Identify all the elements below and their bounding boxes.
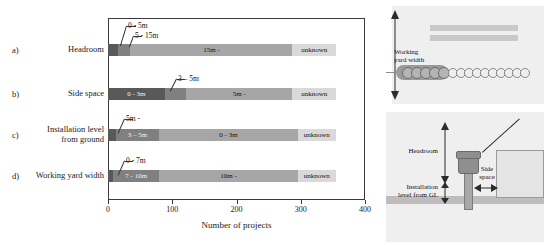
- x-axis-tick-label: 100: [157, 205, 187, 214]
- bar-segment: 0 - 3m: [159, 129, 297, 141]
- x-axis-tick-label: 400: [350, 205, 380, 214]
- reference-diagrams: Working yard width Headroom: [386, 0, 548, 245]
- x-axis-tick-label: 0: [93, 205, 123, 214]
- category-letter-d: d): [12, 171, 19, 181]
- side-space-label: Side space: [472, 165, 502, 181]
- x-axis-tick: [301, 200, 302, 204]
- x-axis-tick: [172, 200, 173, 204]
- bar-segment: 5m -: [186, 88, 292, 100]
- bar-segment: unknown: [298, 129, 337, 141]
- headroom-label: Headroom: [394, 147, 438, 155]
- bar-segment: unknown: [298, 170, 337, 182]
- installation-level-label: Installation level from GL: [380, 183, 438, 199]
- bar-segment: 0 - 3m: [108, 88, 165, 100]
- plan-conduit-circle: [520, 68, 530, 78]
- bar-segment: [108, 44, 118, 56]
- category-name-installation-level: Installation level from ground: [22, 125, 104, 144]
- building-wall: [496, 150, 544, 198]
- bar-segment: [108, 129, 116, 141]
- stacked-bar-chart: a) Headroom b) Side space c) Installatio…: [0, 0, 382, 245]
- category-name-working-yard-width: Working yard width: [22, 171, 104, 181]
- category-letter-a: a): [12, 45, 19, 55]
- x-axis-tick: [365, 200, 366, 204]
- x-axis-tick: [108, 200, 109, 204]
- leader-a-5-15m: [134, 36, 142, 37]
- bar-segment: unknown: [292, 88, 336, 100]
- bar-segment: 3 – 5m: [116, 129, 160, 141]
- plan-band-lower: [430, 35, 518, 41]
- x-axis-tick-label: 200: [222, 205, 252, 214]
- headroom-arrow: [439, 122, 451, 184]
- x-axis-title: Number of projects: [108, 220, 365, 230]
- installation-level-arrow: [439, 182, 451, 204]
- leader-c-5m: [125, 119, 133, 120]
- bar-segment: 15m -: [130, 44, 292, 56]
- transformer-cap: [456, 151, 481, 159]
- figure-root: a) Headroom b) Side space c) Installatio…: [0, 0, 548, 245]
- bar-segment: 10m -: [159, 170, 297, 182]
- category-name-side-space: Side space: [22, 89, 104, 99]
- x-axis-tick: [237, 200, 238, 204]
- bar-segment: [165, 88, 187, 100]
- x-axis-tick-label: 300: [286, 205, 316, 214]
- leader-b-3-5m: [177, 79, 185, 80]
- category-letter-c: c): [12, 130, 19, 140]
- category-letter-b: b): [12, 89, 19, 99]
- bar-segment: unknown: [292, 44, 336, 56]
- leader-a-0-5m: [127, 26, 136, 27]
- side-space-arrow: [474, 183, 498, 193]
- leader-d-0-7m: [125, 161, 133, 162]
- category-name-headroom: Headroom: [22, 45, 104, 55]
- plan-view-label: Working yard width: [394, 48, 440, 64]
- plan-band-upper: [430, 25, 518, 31]
